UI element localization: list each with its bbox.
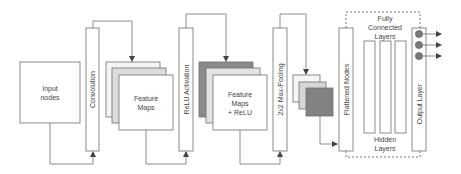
relu-label: ReLU Activation: [183, 64, 190, 114]
feature-maps-relu-label-line2: Maps: [231, 100, 249, 108]
convolution-layer: Convolution: [86, 28, 99, 151]
output-node-2: [415, 41, 422, 48]
pooled-maps-stack: [293, 75, 333, 116]
flattened-nodes-layer: Flattened Nodes: [339, 28, 353, 151]
convolution-label: Convolution: [89, 71, 96, 108]
max-pooling-label: 2x2 Max-Pooling: [277, 63, 285, 115]
output-layer-label: Output Layer: [416, 83, 424, 124]
hidden-layer-1: [364, 41, 375, 133]
hidden-layers-label-line1: Hidden: [374, 136, 396, 143]
hidden-layer-3: [395, 41, 406, 133]
cnn-diagram: Input nodes Convolution Feature Maps ReL…: [0, 0, 461, 174]
hidden-layers: Hidden Layers: [364, 41, 406, 153]
relu-activation-layer: ReLU Activation: [179, 28, 193, 151]
hidden-layers-label-line2: Layers: [374, 145, 396, 153]
feature-maps-relu-label-line3: + ReLU: [228, 109, 252, 116]
feature-maps-label-line2: Maps: [137, 104, 155, 112]
fully-connected-label-line1: Fully: [378, 15, 393, 23]
feature-maps-relu-stack: Feature Maps + ReLU: [199, 62, 267, 130]
flattened-nodes-label: Flattened Nodes: [343, 63, 350, 115]
input-nodes-box: Input nodes: [20, 62, 80, 123]
input-label-line2: nodes: [40, 94, 60, 101]
pooled-map-front: [306, 88, 333, 116]
fully-connected-label-line3: Layers: [374, 33, 396, 41]
fully-connected-label: Fully Connected Layers: [368, 15, 402, 41]
feature-map-front: [119, 75, 173, 130]
diagram-canvas: Input nodes Convolution Feature Maps ReL…: [0, 0, 461, 174]
feature-maps-relu-label-line1: Feature: [228, 91, 252, 98]
max-pooling-layer: 2x2 Max-Pooling: [273, 28, 287, 151]
connector-pooled-maps-to-flattened: [320, 116, 337, 144]
output-node-1: [415, 30, 422, 37]
output-node-3: [415, 52, 422, 59]
output-layer: Output Layer: [412, 28, 441, 151]
input-label-line1: Input: [42, 85, 58, 93]
hidden-layer-2: [380, 41, 391, 133]
fully-connected-label-line2: Connected: [368, 24, 402, 31]
feature-maps-stack: Feature Maps: [106, 62, 173, 130]
feature-maps-label-line1: Feature: [134, 95, 158, 102]
